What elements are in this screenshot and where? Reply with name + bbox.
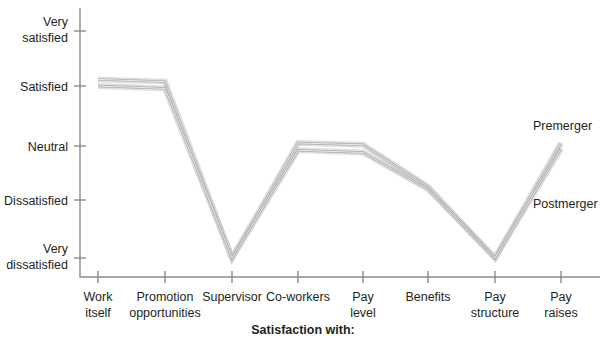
series-label-postmerger: Postmerger	[533, 197, 598, 211]
y-label-very-satisfied-line2: satisfied	[22, 31, 68, 45]
series-glow-postmerger	[98, 86, 561, 258]
y-label-very-satisfied-line1: Very	[43, 15, 69, 29]
series-line-postmerger[interactable]	[98, 86, 561, 258]
x-label-pay-raises-line2: raises	[544, 306, 577, 320]
data-series-group	[98, 79, 561, 258]
x-label-co-workers: Co-workers	[266, 290, 330, 304]
y-axis-labels: Very satisfied Satisfied Neutral Dissati…	[4, 15, 69, 272]
x-label-pay-level-line1: Pay	[352, 290, 374, 304]
y-label-satisfied: Satisfied	[20, 80, 68, 94]
x-axis-labels: Work itself Promotion opportunities Supe…	[84, 290, 578, 320]
series-label-premerger: Premerger	[533, 119, 592, 133]
line-chart-canvas: Very satisfied Satisfied Neutral Dissati…	[0, 0, 609, 339]
series-line-premerger[interactable]	[98, 79, 561, 258]
y-label-neutral: Neutral	[28, 140, 68, 154]
x-label-pay-structure-line2: structure	[471, 306, 520, 320]
series-highlight-postmerger	[98, 86, 561, 258]
y-label-dissatisfied: Dissatisfied	[4, 194, 68, 208]
x-axis-title: Satisfaction with:	[251, 323, 354, 337]
x-label-promotion-opportunities-line1: Promotion	[137, 290, 194, 304]
x-label-pay-level-line2: level	[350, 306, 376, 320]
x-label-work-itself-line2: itself	[85, 306, 111, 320]
x-label-pay-raises-line1: Pay	[550, 290, 572, 304]
y-label-very-dissatisfied-line2: dissatisfied	[6, 258, 68, 272]
x-label-supervisor: Supervisor	[202, 290, 262, 304]
series-glow-premerger	[98, 79, 561, 258]
y-label-very-dissatisfied-line1: Very	[43, 242, 69, 256]
x-label-work-itself-line1: Work	[84, 290, 114, 304]
x-label-benefits: Benefits	[405, 290, 450, 304]
series-highlight-premerger	[98, 79, 561, 258]
x-label-promotion-opportunities-line2: opportunities	[129, 306, 201, 320]
x-label-pay-structure-line1: Pay	[484, 290, 506, 304]
chart-figure: Very satisfied Satisfied Neutral Dissati…	[0, 0, 609, 339]
